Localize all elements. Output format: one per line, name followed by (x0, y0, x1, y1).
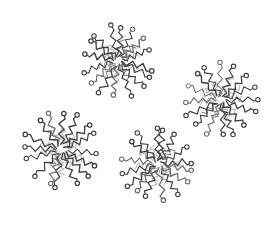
head-group-circle (147, 48, 151, 52)
head-group-circle (135, 188, 139, 192)
head-group-circle (141, 36, 145, 40)
polymer-chain (111, 66, 119, 97)
head-group-circle (221, 132, 225, 136)
head-group-circle (244, 73, 248, 77)
head-group-circle (92, 34, 96, 38)
head-group-circle (172, 132, 176, 136)
head-group-circle (135, 131, 139, 135)
head-group-circle (120, 171, 124, 175)
head-group-circle (23, 132, 27, 136)
head-group-circle (86, 174, 90, 178)
head-group-circle (33, 174, 37, 178)
micelle-right (184, 60, 261, 137)
head-group-circle (75, 113, 79, 117)
polymer-chain (24, 151, 56, 161)
micelle-illustration (0, 0, 280, 225)
chain-tail (154, 134, 160, 160)
head-group-circle (92, 164, 96, 168)
head-group-circle (231, 64, 235, 68)
head-group-circle (185, 145, 189, 149)
head-group-circle (142, 84, 146, 88)
polymer-chain (135, 131, 154, 159)
chain-tail (116, 33, 123, 58)
head-group-circle (92, 131, 96, 135)
polymer-chain (224, 73, 248, 97)
head-group-circle (186, 84, 190, 88)
head-group-circle (231, 132, 235, 136)
head-group-circle (83, 52, 87, 56)
head-group-circle (89, 81, 93, 85)
head-group-circle (46, 111, 50, 115)
head-group-circle (88, 123, 92, 127)
head-group-circle (23, 145, 27, 149)
head-group-circle (75, 181, 79, 185)
head-group-circle (143, 194, 147, 198)
inner-chain (120, 65, 130, 81)
head-group-circle (129, 94, 133, 98)
polymer-chain (96, 67, 115, 95)
head-group-circle (131, 27, 135, 31)
micelle-bottom-left (23, 111, 99, 190)
head-group-circle (38, 118, 42, 122)
head-group-circle (62, 111, 66, 115)
head-group-circle (189, 161, 193, 165)
polymer-chain (82, 61, 112, 75)
head-group-circle (196, 71, 200, 75)
head-group-circle (256, 98, 260, 102)
head-group-circle (130, 139, 134, 143)
head-group-circle (82, 71, 86, 75)
head-group-circle (186, 180, 190, 184)
head-group-circle (161, 198, 165, 202)
head-group-circle (254, 109, 258, 113)
head-group-circle (155, 126, 159, 130)
head-group-circle (53, 185, 57, 189)
head-group-circle (150, 69, 154, 73)
polymer-chain (38, 118, 58, 146)
head-group-circle (24, 156, 28, 160)
head-group-circle (120, 157, 124, 161)
head-group-circle (147, 75, 151, 79)
head-group-circle (202, 66, 206, 70)
head-group-circle (89, 39, 93, 43)
head-group-circle (119, 26, 123, 30)
head-group-circle (184, 100, 188, 104)
head-group-circle (109, 23, 113, 27)
micelle-bottom-center (120, 126, 194, 202)
polymer-chain (157, 128, 165, 161)
head-group-circle (160, 128, 164, 132)
head-group-circle (194, 122, 198, 126)
chain-tail (193, 86, 216, 98)
polymer-chain (202, 66, 221, 97)
head-group-circle (218, 60, 222, 64)
head-group-circle (189, 168, 193, 172)
head-group-circle (111, 93, 115, 97)
head-group-circle (253, 85, 257, 89)
head-group-circle (125, 184, 129, 188)
head-group-circle (94, 151, 98, 155)
micelle-figure (0, 0, 280, 225)
head-group-circle (176, 192, 180, 196)
micelle-top (82, 23, 154, 98)
head-group-circle (242, 123, 246, 127)
head-group-circle (184, 113, 188, 117)
head-group-circle (96, 91, 100, 95)
head-group-circle (205, 132, 209, 136)
head-group-circle (49, 181, 53, 185)
